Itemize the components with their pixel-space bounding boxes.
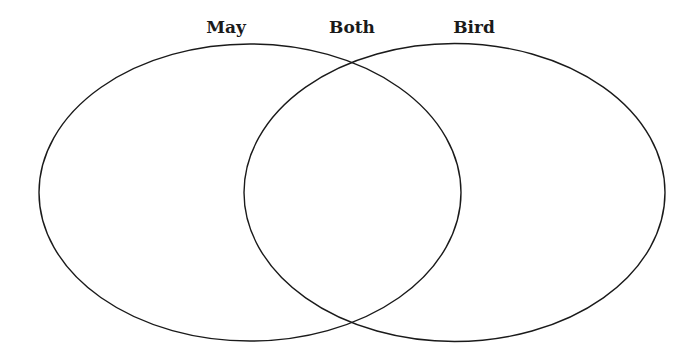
may-ellipse [39,44,461,341]
label-both: Both [329,17,375,37]
label-bird: Bird [453,17,495,37]
label-may: May [206,17,246,37]
bird-ellipse [244,44,665,342]
venn-diagram [0,0,699,360]
